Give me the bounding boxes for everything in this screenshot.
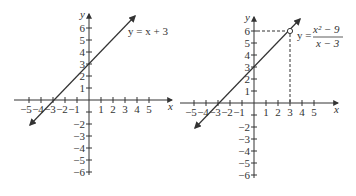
svg-text:−3: −3 [238,133,250,145]
svg-text:−2: −2 [73,118,85,130]
open-circle-hole [287,28,292,33]
svg-text:−5: −5 [185,106,197,118]
svg-text:−3: −3 [209,106,221,118]
svg-text:5: 5 [80,34,86,46]
svg-text:−4: −4 [238,145,250,157]
svg-text:4: 4 [134,103,140,115]
right-graph: y x y = x² − 9 x − 3 −5−4−3−2−1 12345 65… [180,11,343,181]
svg-text:−5: −5 [20,103,32,115]
svg-text:6: 6 [245,25,251,37]
svg-text:4: 4 [299,106,305,118]
y-axis-label: y [79,8,85,20]
svg-text:y =: y = [297,29,311,41]
svg-text:−3: −3 [44,103,56,115]
svg-text:−1: −1 [233,106,245,118]
x-axis-label: x [167,100,173,112]
svg-text:−6: −6 [238,169,250,181]
svg-text:x² − 9: x² − 9 [312,23,340,35]
left-graph: y x y = x + 3 −5−4−3−2−1 12345 654321 −2… [14,8,173,178]
x-axis-label: x [333,103,339,115]
svg-text:2: 2 [275,106,281,118]
svg-text:1: 1 [98,103,104,115]
svg-text:3: 3 [245,61,251,73]
y-axis-label: y [244,11,250,23]
svg-text:5: 5 [146,103,152,115]
svg-text:−6: −6 [73,166,85,178]
svg-text:4: 4 [80,46,86,58]
svg-text:1: 1 [245,85,251,97]
svg-text:−2: −2 [238,121,250,133]
svg-text:−5: −5 [73,154,85,166]
svg-text:6: 6 [80,22,86,34]
svg-text:−1: −1 [68,103,80,115]
svg-text:−2: −2 [221,106,233,118]
svg-text:5: 5 [311,106,317,118]
equation-label: y = x + 3 [128,25,168,37]
svg-text:1: 1 [263,106,269,118]
svg-text:3: 3 [80,58,86,70]
svg-text:−3: −3 [73,130,85,142]
svg-text:3: 3 [122,103,128,115]
graphs-figure: y x y = x + 3 −5−4−3−2−1 12345 654321 −2… [0,0,356,196]
svg-text:5: 5 [245,37,251,49]
svg-text:x − 3: x − 3 [315,37,340,49]
svg-text:2: 2 [245,73,251,85]
svg-text:3: 3 [287,106,293,118]
svg-text:−4: −4 [197,106,209,118]
svg-text:2: 2 [80,70,86,82]
svg-text:−5: −5 [238,157,250,169]
x-tick-labels: −5−4−3−2−1 12345 [185,106,317,118]
svg-text:−2: −2 [56,103,68,115]
svg-text:1: 1 [80,82,86,94]
equation-label: y = x² − 9 x − 3 [297,23,343,49]
svg-text:−4: −4 [32,103,44,115]
svg-text:4: 4 [245,49,251,61]
svg-text:2: 2 [110,103,116,115]
svg-text:−4: −4 [73,142,85,154]
x-tick-labels: −5−4−3−2−1 12345 [20,103,152,115]
